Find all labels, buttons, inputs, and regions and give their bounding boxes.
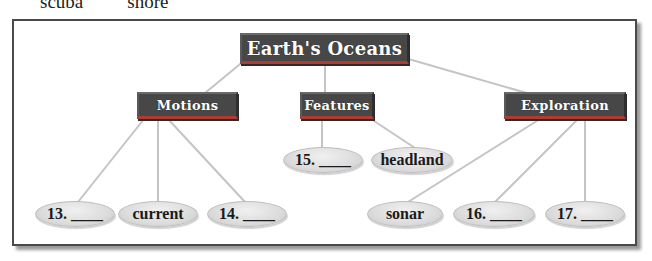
category-node-exploration: Exploration	[504, 92, 626, 119]
connector-root-motions	[205, 60, 245, 93]
leaf-node-sonar: sonar	[367, 201, 443, 227]
connector-features-headland	[368, 117, 415, 148]
connector-motions-13	[78, 119, 144, 202]
leaf-node-headland: headland	[371, 147, 453, 173]
leaf-node-blank-14: 14. ____	[207, 201, 287, 227]
leaf-node-blank-15: 15. ____	[283, 147, 363, 173]
root-node-earths-oceans: Earth's Oceans	[240, 33, 409, 64]
connector-exploration-16	[495, 119, 578, 202]
connector-motions-14	[168, 119, 245, 202]
leaf-node-blank-16: 16. ____	[453, 201, 535, 227]
connector-root-exploration	[405, 58, 530, 94]
category-node-motions: Motions	[137, 92, 238, 119]
category-node-features: Features	[300, 92, 374, 119]
leaf-node-blank-13: 13. ____	[35, 201, 115, 227]
leaf-node-current: current	[118, 201, 198, 227]
leaf-node-blank-17: 17. ____	[545, 201, 625, 227]
